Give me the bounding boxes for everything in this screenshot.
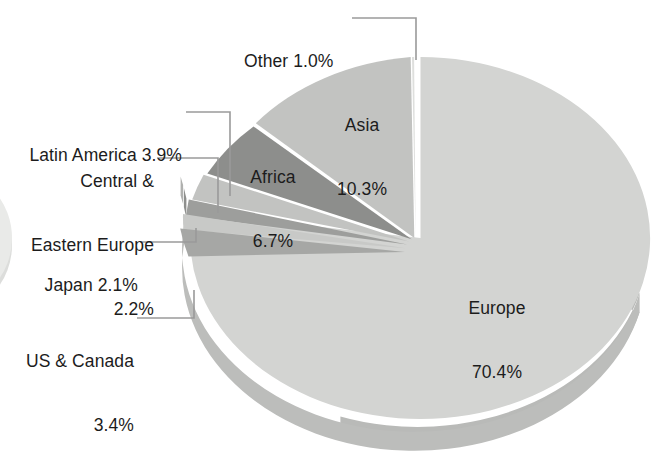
leader-line-other — [352, 18, 416, 60]
pie-chart-figure: Other 1.0% Latin America 3.9% Central & … — [0, 0, 658, 453]
slice-label-asia: Asia 10.3% — [312, 72, 412, 243]
slice-label-africa-line1: Africa — [226, 167, 320, 188]
slice-label-africa-line2: 6.7% — [226, 231, 320, 252]
slice-label-africa: Africa 6.7% — [226, 124, 320, 295]
slice-label-europe-line1: Europe — [442, 298, 552, 319]
slice-label-central-eastern-europe-line1: Central & — [0, 171, 154, 192]
slice-label-asia-line1: Asia — [312, 115, 412, 136]
pie-side-us-canada — [184, 188, 187, 218]
slice-label-asia-line2: 10.3% — [312, 179, 412, 200]
slice-label-us-canada: US & Canada 3.4% — [0, 308, 134, 453]
slice-label-europe-line2: 70.4% — [442, 362, 552, 383]
slice-label-us-canada-line1: US & Canada — [0, 351, 134, 372]
slice-label-other-text: Other 1.0% — [244, 51, 334, 72]
slice-label-japan-text: Japan 2.1% — [0, 275, 138, 296]
slice-label-us-canada-line2: 3.4% — [0, 415, 134, 436]
slice-label-europe: Europe 70.4% — [442, 255, 552, 426]
